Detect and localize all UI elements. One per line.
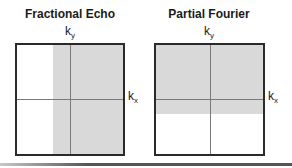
- partial-fourier-title: Partial Fourier: [154, 7, 264, 21]
- fractional-echo-title: Fractional Echo: [15, 7, 125, 21]
- partial-fourier-ky-label: ky: [198, 24, 220, 40]
- kx-axis-line: [17, 99, 123, 100]
- bottom-divider: [0, 163, 292, 166]
- kx-sub: x: [134, 96, 138, 105]
- ky-sub: y: [210, 31, 214, 40]
- partial-fourier-kx-label: kx: [268, 89, 278, 105]
- fractional-echo-kx-label: kx: [128, 89, 138, 105]
- ky-sub: y: [71, 31, 75, 40]
- fractional-echo-kspace-box: [15, 43, 125, 156]
- fractional-echo-ky-label: ky: [59, 24, 81, 40]
- kx-axis-line: [156, 99, 263, 100]
- kx-sub: x: [274, 96, 278, 105]
- partial-fourier-kspace-box: [154, 43, 265, 156]
